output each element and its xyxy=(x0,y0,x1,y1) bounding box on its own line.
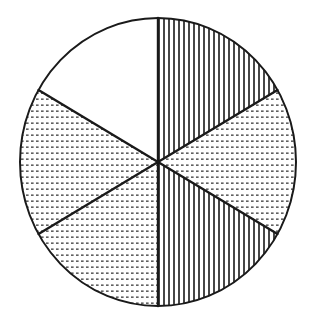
fraction-circle-diagram xyxy=(0,0,315,325)
